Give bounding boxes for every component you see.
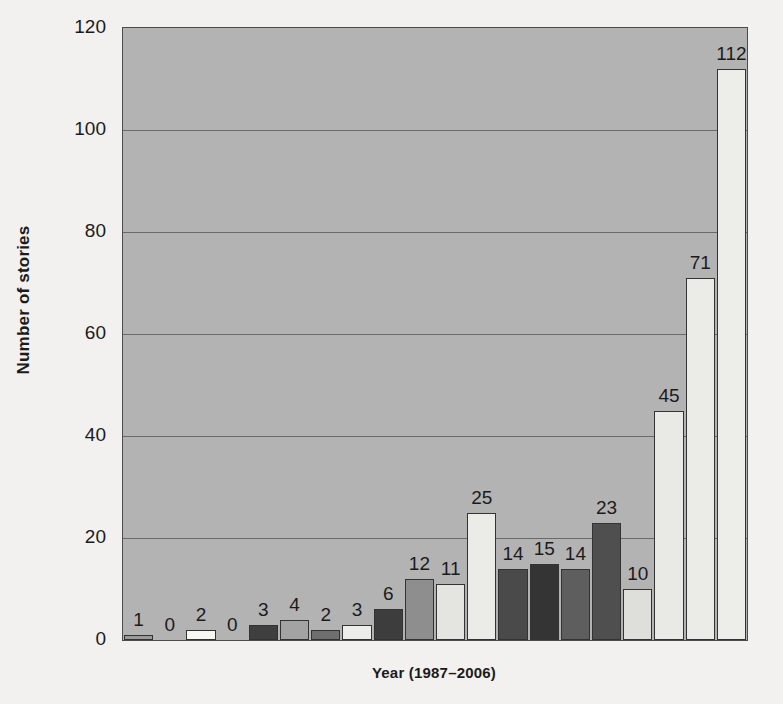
bar — [374, 609, 403, 640]
bar-chart: Number of stories 020406080100120 102034… — [0, 0, 783, 704]
bar — [623, 589, 652, 640]
bar — [467, 513, 496, 641]
bar — [342, 625, 371, 640]
bar-value-label: 45 — [648, 386, 689, 405]
bar — [530, 564, 559, 641]
y-tick-label: 100 — [48, 119, 106, 138]
y-tick-label: 120 — [48, 17, 106, 36]
y-axis-title: Number of stories — [14, 170, 34, 430]
bar-value-label: 71 — [680, 253, 721, 272]
y-tick-label: 40 — [48, 425, 106, 444]
y-tick-label: 60 — [48, 323, 106, 342]
plot-area: 10203423612112514151423104571112 — [122, 27, 748, 641]
bar-value-label: 14 — [555, 544, 596, 563]
bar — [311, 630, 340, 640]
bar-value-label: 11 — [430, 559, 471, 578]
bar-value-label: 23 — [586, 498, 627, 517]
bar — [498, 569, 527, 640]
bar-value-label: 112 — [711, 44, 752, 63]
y-tick-label: 0 — [48, 629, 106, 648]
bar — [717, 69, 746, 640]
bar-value-label: 6 — [368, 584, 409, 603]
x-axis-title: Year (1987–2006) — [122, 664, 746, 681]
bar — [561, 569, 590, 640]
bar-value-label: 10 — [617, 564, 658, 583]
bar — [436, 584, 465, 640]
bar — [405, 579, 434, 640]
bar-value-label: 25 — [461, 488, 502, 507]
bar — [249, 625, 278, 640]
bar — [686, 278, 715, 640]
y-axis-ticks: 020406080100120 — [48, 0, 106, 704]
y-tick-label: 20 — [48, 527, 106, 546]
bars-group: 10203423612112514151423104571112 — [123, 28, 747, 640]
bar — [124, 635, 153, 640]
y-tick-label: 80 — [48, 221, 106, 240]
bar — [654, 411, 683, 641]
